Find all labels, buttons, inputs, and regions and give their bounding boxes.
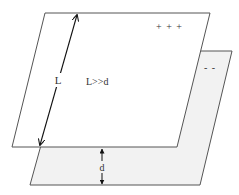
negative-charges: - - — [204, 62, 216, 73]
length-label: L — [55, 74, 62, 86]
separation-label: d — [100, 162, 105, 173]
positive-charges: + + + — [156, 21, 183, 32]
top-plate — [12, 13, 210, 147]
condition-label: L>>d — [86, 76, 108, 87]
capacitor-diagram: L L>>d + + + - - d — [0, 0, 239, 195]
